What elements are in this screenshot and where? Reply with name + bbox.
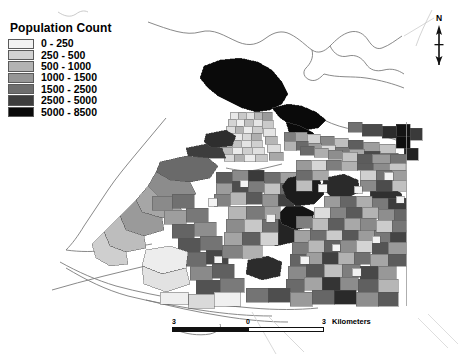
legend-swatch [8, 39, 34, 49]
scale-bar-units: Kilometers [332, 318, 371, 326]
scale-bar-ticks: 3 0 3 [172, 318, 324, 326]
legend-swatch [8, 50, 34, 60]
legend-label: 0 - 250 [41, 38, 74, 49]
north-arrow-label: N [428, 14, 450, 23]
scale-segment-right [248, 327, 324, 332]
legend: Population Count 0 - 250250 - 500500 - 1… [8, 22, 112, 118]
north-arrow-icon [428, 23, 450, 67]
legend-swatch [8, 107, 34, 117]
legend-row[interactable]: 1000 - 1500 [8, 72, 112, 83]
scale-bar: 3 0 3 Kilometers [172, 318, 352, 338]
scale-tick-mid: 0 [246, 318, 250, 326]
scale-tick-right: 3 [322, 318, 326, 326]
legend-row[interactable]: 5000 - 8500 [8, 106, 112, 117]
legend-swatch [8, 95, 34, 105]
scale-tick-left: 3 [172, 318, 176, 326]
legend-label: 250 - 500 [41, 50, 85, 61]
legend-label: 500 - 1000 [41, 61, 91, 72]
legend-label: 1500 - 2500 [41, 84, 97, 95]
legend-row[interactable]: 0 - 250 [8, 38, 112, 49]
legend-rows: 0 - 250250 - 500500 - 10001000 - 1500150… [8, 38, 112, 118]
legend-swatch [8, 73, 34, 83]
legend-swatch [8, 61, 34, 71]
map-page: Population Count 0 - 250250 - 500500 - 1… [0, 0, 461, 356]
north-arrow: N [428, 14, 450, 68]
scale-bar-segments [172, 327, 324, 333]
legend-row[interactable]: 2500 - 5000 [8, 95, 112, 106]
legend-label: 5000 - 8500 [41, 107, 97, 118]
scale-segment-left [172, 327, 248, 332]
legend-title: Population Count [10, 22, 112, 35]
legend-label: 1000 - 1500 [41, 72, 97, 83]
legend-swatch [8, 84, 34, 94]
legend-label: 2500 - 5000 [41, 95, 97, 106]
